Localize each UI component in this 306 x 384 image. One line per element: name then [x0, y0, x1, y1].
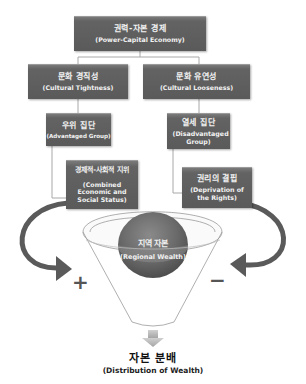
- root-node-power-capital-economy: 권력-자본 경제 (Power-Capital Economy): [74, 16, 206, 51]
- output-en: (Distribution of Wealth): [83, 366, 223, 375]
- root-node-ko: 권력-자본 경제: [114, 24, 166, 34]
- center-ko: 지역 자본: [118, 237, 188, 248]
- minus-sign: −: [209, 268, 226, 292]
- node-en: (Combined Economic and Social Status): [67, 181, 137, 205]
- node-en: (Cultural Looseness): [160, 84, 233, 92]
- node-en: (Cultural Tightness): [43, 84, 114, 92]
- right-curved-arrow: [230, 203, 284, 277]
- node-disadvantaged-group: 열세 집단 (Disadvantaged Group): [167, 113, 230, 149]
- output-distribution-of-wealth: 자본 분배 (Distribution of Wealth): [83, 349, 223, 375]
- plus-sign: +: [72, 270, 89, 294]
- node-en: (Deprivation of the Rights): [184, 186, 250, 202]
- node-cultural-looseness: 문화 유연성 (Cultural Looseness): [143, 64, 250, 99]
- node-ko: 권리의 결핍: [197, 174, 238, 184]
- node-combined-economic-social-status: 경제적-사회적 지위 (Combined Economic and Social…: [66, 160, 138, 209]
- node-advantaged-group: 우위 집단 (Advantaged Group): [46, 113, 111, 146]
- root-node-en: (Power-Capital Economy): [95, 36, 185, 44]
- output-ko: 자본 분배: [83, 349, 223, 365]
- node-ko: 열세 집단: [182, 118, 215, 128]
- node-ko: 문화 유연성: [176, 72, 217, 82]
- diagram-graphics: [0, 0, 306, 384]
- down-arrow: [142, 330, 164, 347]
- node-deprivation-of-rights: 권리의 결핍 (Deprivation of the Rights): [182, 167, 252, 208]
- center-en: (Regional Wealth): [118, 253, 188, 261]
- node-ko: 경제적-사회적 지위: [75, 166, 128, 175]
- node-cultural-tightness: 문화 경직성 (Cultural Tightness): [28, 64, 128, 99]
- node-en: (Advantaged Group): [46, 133, 110, 140]
- center-regional-wealth-label: 지역 자본 (Regional Wealth): [118, 237, 188, 261]
- node-en: (Disadvantaged Group): [173, 130, 225, 146]
- node-ko: 우위 집단: [62, 121, 95, 131]
- left-curved-arrow: [22, 203, 72, 281]
- node-ko: 문화 경직성: [58, 72, 99, 82]
